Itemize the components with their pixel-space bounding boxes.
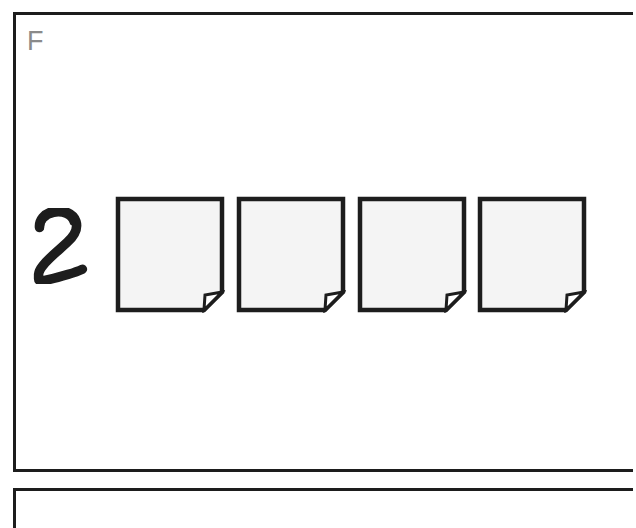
document-card[interactable]: 3 xyxy=(357,196,467,313)
diagram-panel-next xyxy=(13,488,633,528)
document-folded-corner-icon xyxy=(236,196,346,313)
panel-label-letter: F xyxy=(27,28,44,55)
step-number: 2 xyxy=(32,208,92,284)
document-card[interactable]: 1 xyxy=(115,196,225,313)
diagram-panel-main: F 2 1 2 xyxy=(13,12,633,472)
step-number-glyph xyxy=(32,208,92,284)
document-folded-corner-icon xyxy=(115,196,225,313)
document-folded-corner-icon xyxy=(357,196,467,313)
document-card[interactable]: 4 xyxy=(477,196,587,313)
document-folded-corner-icon xyxy=(477,196,587,313)
document-card[interactable]: 2 xyxy=(236,196,346,313)
step-row: 2 1 2 3 xyxy=(16,170,636,310)
